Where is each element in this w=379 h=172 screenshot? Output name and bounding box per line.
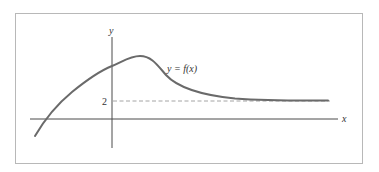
y-axis-label: y (108, 25, 114, 36)
x-axis-label: x (341, 113, 347, 124)
function-graph-figure: y x 2 y = f(x) (0, 0, 379, 172)
curve-label: y = f(x) (166, 63, 198, 75)
asymptote-value-label: 2 (102, 96, 107, 107)
